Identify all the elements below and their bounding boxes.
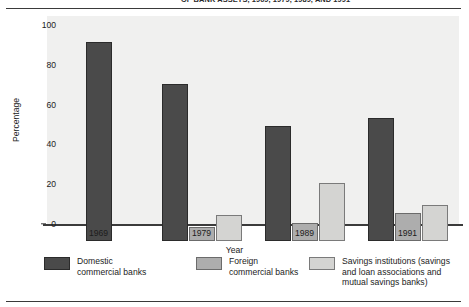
legend-swatch-icon [196, 257, 222, 270]
bar [216, 215, 242, 241]
bar [368, 118, 394, 241]
bar [422, 205, 448, 241]
legend-swatch-icon [309, 257, 335, 270]
legend-swatch-icon [44, 257, 70, 270]
x-axis-label: Year [0, 245, 469, 255]
bar [319, 183, 345, 241]
bar-group [253, 42, 356, 241]
chart-title: OF BANK ASSETS, 1969, 1979, 1989, AND 19… [181, 0, 350, 4]
bottom-divider [6, 301, 461, 302]
bar-group [47, 42, 150, 241]
bar-group [356, 42, 459, 241]
bar-chart: Percentage 020406080100 1969197919891991… [0, 9, 469, 241]
legend-item-savings: Savings institutions (savings and loan a… [309, 256, 469, 288]
bar [162, 84, 188, 241]
x-tick-label: 1979 [192, 228, 211, 238]
bar [265, 126, 291, 241]
y-axis-label: Percentage [11, 80, 21, 160]
legend-item-domestic: Domestic commercial banks [44, 256, 164, 277]
bar-group [150, 42, 253, 241]
y-tick-label: 100 [42, 20, 56, 30]
chart-legend: Domestic commercial banks Foreign commer… [0, 256, 469, 298]
legend-label: Foreign commercial banks [229, 256, 298, 277]
bar [86, 42, 112, 241]
y-tick-mark [41, 223, 46, 224]
x-tick-label: 1969 [89, 228, 108, 238]
x-tick-label: 1991 [398, 228, 417, 238]
legend-label: Savings institutions (savings and loan a… [342, 256, 450, 288]
legend-label: Domestic commercial banks [77, 256, 146, 277]
legend-item-foreign: Foreign commercial banks [196, 256, 316, 277]
x-tick-label: 1989 [295, 228, 314, 238]
